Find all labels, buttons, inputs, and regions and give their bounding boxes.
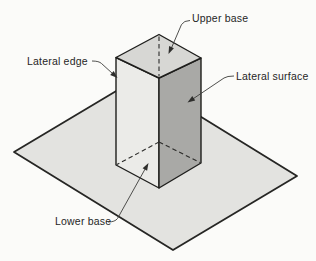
lateral-surface-label: Lateral surface <box>236 71 308 82</box>
lateral-edge-leader-line <box>92 61 113 74</box>
lower-base-label: Lower base <box>55 216 111 227</box>
prism-left-face <box>116 58 159 189</box>
lateral-edge-label: Lateral edge <box>27 56 88 67</box>
upper-base-label: Upper base <box>192 13 248 24</box>
prism-diagram-svg <box>0 0 316 261</box>
prism-diagram: Upper base Lateral edge Lateral surface … <box>0 0 316 261</box>
